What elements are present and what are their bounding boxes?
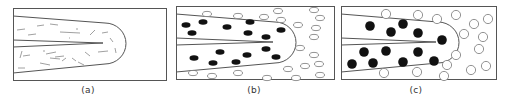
needle-particle bbox=[78, 62, 84, 65]
needle-particle bbox=[90, 30, 95, 35]
needle-particle bbox=[98, 51, 108, 52]
panel-a-crack bbox=[13, 40, 103, 47]
hollow-particle bbox=[294, 22, 303, 27]
filled-particle bbox=[209, 60, 218, 66]
needle-particle bbox=[55, 56, 64, 57]
hollow-particle bbox=[274, 8, 283, 13]
hollow-particle bbox=[451, 50, 460, 59]
hollow-particle bbox=[381, 9, 390, 18]
hollow-particle bbox=[284, 66, 293, 71]
needle-particle bbox=[23, 55, 30, 56]
needle-particle bbox=[50, 58, 60, 59]
panel-c-crack bbox=[341, 38, 436, 45]
hollow-particle bbox=[301, 63, 310, 68]
filled-particle bbox=[223, 24, 232, 30]
filled-particle bbox=[386, 27, 396, 37]
filled-particle bbox=[381, 46, 391, 56]
needle-particle bbox=[37, 25, 44, 26]
hollow-particle bbox=[413, 10, 422, 19]
filled-particle bbox=[216, 49, 225, 55]
hollow-particle bbox=[203, 11, 212, 16]
hollow-particle bbox=[459, 29, 468, 38]
needle-particle bbox=[115, 48, 116, 53]
hollow-particle bbox=[292, 75, 301, 80]
filled-particle bbox=[277, 27, 286, 33]
panel-b-crack bbox=[176, 38, 273, 45]
filled-particle bbox=[365, 21, 375, 31]
filled-particle bbox=[359, 47, 369, 57]
hollow-particle bbox=[379, 68, 388, 77]
filled-particle bbox=[188, 30, 197, 36]
hollow-particle bbox=[316, 15, 325, 20]
hollow-particle bbox=[310, 52, 319, 57]
hollow-particle bbox=[432, 14, 441, 23]
filled-particle bbox=[347, 59, 357, 69]
hollow-particle bbox=[296, 45, 305, 50]
filled-particle bbox=[429, 56, 439, 66]
hollow-particle bbox=[439, 71, 448, 80]
hollow-particle bbox=[260, 14, 269, 19]
needle-particle bbox=[60, 32, 80, 33]
panel-b-label: (b) bbox=[247, 85, 261, 95]
filled-particle bbox=[413, 47, 423, 57]
hollow-particle bbox=[310, 34, 319, 39]
needle-particle bbox=[85, 52, 90, 56]
filled-particle bbox=[243, 52, 252, 58]
panel-a-label: (a) bbox=[81, 85, 94, 95]
needle-particle bbox=[72, 58, 76, 61]
needle-particle bbox=[40, 63, 50, 65]
hollow-particle bbox=[310, 7, 319, 12]
hollow-particle bbox=[234, 70, 243, 75]
filled-particle bbox=[199, 19, 208, 25]
hollow-particle bbox=[189, 70, 198, 75]
hollow-particle bbox=[412, 67, 421, 76]
hollow-particle bbox=[208, 73, 217, 78]
filled-particle bbox=[398, 19, 408, 29]
filled-particle bbox=[272, 54, 281, 60]
hollow-particle bbox=[315, 61, 324, 66]
needle-particle bbox=[110, 38, 113, 42]
hollow-particle bbox=[478, 32, 487, 41]
filled-particle bbox=[437, 35, 447, 45]
filled-particle bbox=[368, 58, 378, 68]
hollow-particle bbox=[312, 25, 321, 30]
hollow-particle bbox=[277, 17, 286, 22]
filled-particle bbox=[246, 19, 255, 25]
needle-particle bbox=[50, 24, 58, 25]
hollow-particle bbox=[469, 19, 478, 28]
panel-a-frame bbox=[14, 9, 167, 81]
filled-particle bbox=[262, 46, 271, 52]
needle-particle bbox=[102, 32, 108, 33]
hollow-particle bbox=[481, 61, 490, 70]
hollow-particle bbox=[483, 14, 492, 23]
hollow-particle bbox=[263, 75, 272, 80]
hollow-particle bbox=[474, 44, 483, 53]
needle-particle bbox=[62, 58, 66, 61]
filled-particle bbox=[182, 22, 191, 28]
needle-particle bbox=[20, 51, 22, 58]
hollow-particle bbox=[451, 10, 460, 19]
needle-particle bbox=[17, 29, 25, 30]
needle-particle bbox=[28, 34, 36, 35]
needle-particle bbox=[46, 52, 56, 54]
hollow-particle bbox=[234, 13, 243, 18]
hollow-particle bbox=[466, 65, 475, 74]
hollow-particle bbox=[442, 60, 451, 69]
hollow-particle bbox=[316, 72, 325, 77]
filled-particle bbox=[232, 59, 241, 65]
filled-particle bbox=[262, 34, 271, 40]
panel-c-label: (c) bbox=[410, 85, 423, 95]
filled-particle bbox=[398, 57, 408, 67]
filled-particle bbox=[190, 55, 199, 61]
filled-particle bbox=[244, 30, 253, 36]
filled-particle bbox=[413, 28, 423, 38]
